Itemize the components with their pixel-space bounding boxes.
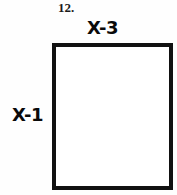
geometry-figure: 12. X-3 X-1 [0,0,177,195]
rectangle-width-label: X-3 [87,18,118,38]
rectangle-shape [52,43,173,190]
problem-number: 12. [58,0,74,15]
rectangle-height-label: X-1 [12,105,43,125]
